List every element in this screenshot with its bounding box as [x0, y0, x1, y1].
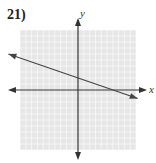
x-axis-arrow-left: [8, 87, 16, 93]
x-axis-arrow-right: [139, 87, 147, 93]
y-axis-arrow-down: [75, 152, 81, 160]
x-axis-label: x: [148, 83, 154, 95]
coordinate-plane: x y: [0, 0, 156, 163]
y-axis-label: y: [79, 7, 85, 19]
line-arrow-left: [8, 54, 17, 60]
y-axis-arrow-up: [75, 18, 81, 26]
